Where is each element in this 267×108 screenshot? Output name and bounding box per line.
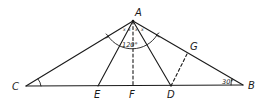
angle-part-x-3: x [134, 27, 138, 32]
angle-part-x-1: x [122, 27, 126, 32]
segment-DG-dashed [171, 54, 187, 86]
segment-AB [133, 21, 243, 85]
angle-part-x-4: x [140, 27, 144, 32]
label-D: D [167, 89, 175, 100]
label-F: F [129, 89, 135, 100]
triangle-diagram: A B C D E F G 120° 30° x x x x [0, 0, 267, 108]
geometry-figure: A B C D E F G 120° 30° x x x x [0, 0, 267, 108]
angle-part-x-2: x [127, 27, 131, 32]
angle-label-A: 120° [122, 41, 138, 49]
label-A: A [134, 7, 142, 18]
segment-CB [26, 85, 243, 86]
angle-label-B: 30° [222, 78, 234, 86]
label-E: E [94, 89, 101, 100]
label-B: B [248, 80, 255, 91]
angle-arc-C [38, 79, 41, 86]
segment-AD [133, 21, 171, 86]
label-C: C [12, 81, 19, 92]
segment-AC [26, 21, 133, 86]
label-G: G [190, 41, 198, 52]
vertex-A-dot [132, 20, 135, 23]
